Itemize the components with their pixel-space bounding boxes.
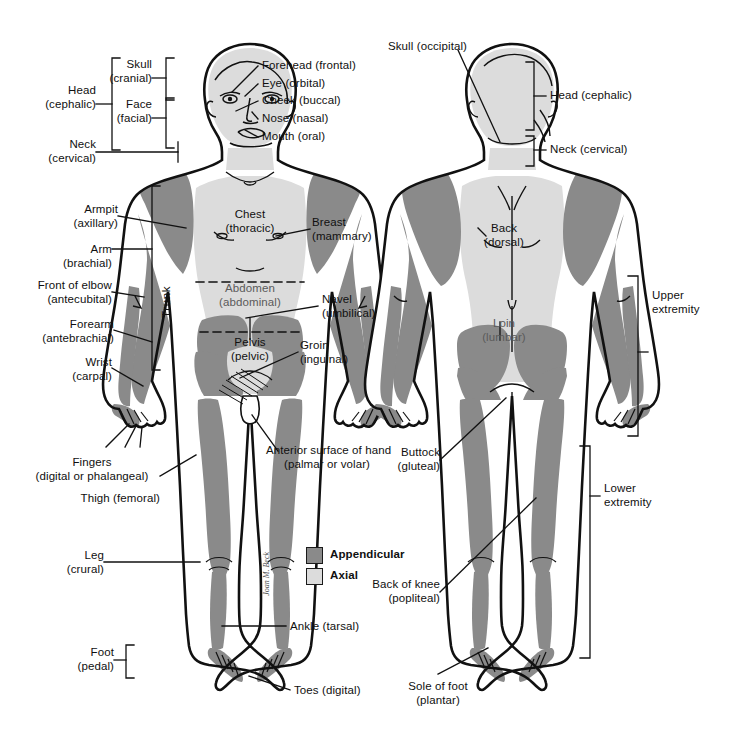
label-forehead-frontal: Forehead (frontal) — [262, 59, 356, 73]
label-navel-umbilical: Navel (umbilical) — [322, 293, 376, 320]
legend-swatch-appendicular — [306, 547, 323, 564]
label-foot-pedal: Foot (pedal) — [30, 646, 114, 673]
label-eye-orbital: Eye (orbital) — [262, 77, 325, 91]
label-buttock-gluteal: Buttock (gluteal) — [360, 446, 440, 473]
label-groin-inguinal: Groin (inguinal) — [300, 339, 348, 366]
label-sole-of-foot-plantar: Sole of foot (plantar) — [388, 680, 488, 707]
label-pelvis-pelvic: Pelvis (pelvic) — [206, 336, 294, 363]
label-lower-extremity: Lower extremity — [604, 482, 652, 509]
label-armpit-axillary: Armpit (axillary) — [20, 203, 118, 230]
label-wrist-carpal: Wrist (carpal) — [20, 356, 112, 383]
label-abdomen-abdominal: Abdomen (abdominal) — [192, 282, 308, 309]
label-nose-nasal: Nose (nasal) — [262, 112, 328, 126]
label-arm-brachial: Arm (brachial) — [20, 243, 112, 270]
label-neck-cervical-posterior: Neck (cervical) — [550, 143, 628, 157]
label-chest-thoracic: Chest (thoracic) — [194, 208, 306, 235]
anatomical-regions-diagram: Head (cephalic) Skull (cranial) Face (fa… — [0, 0, 729, 742]
label-breast-mammary: Breast (mammary) — [312, 216, 372, 243]
legend-label-axial: Axial — [330, 569, 358, 583]
label-neck-cervical: Neck (cervical) — [14, 138, 96, 165]
label-head-cephalic-posterior: Head (cephalic) — [550, 89, 632, 103]
artist-signature: Joan M. Beck — [262, 552, 271, 596]
posterior-left-leg — [472, 571, 489, 650]
label-face-facial: Face (facial) — [84, 98, 152, 125]
legend-swatch-axial — [306, 568, 323, 585]
label-forearm-antebrachial: Forearm (antebrachial) — [4, 318, 114, 345]
legend-label-appendicular: Appendicular — [330, 548, 405, 562]
posterior-neck-axial — [488, 148, 536, 170]
label-mouth-oral: Mouth (oral) — [262, 130, 325, 144]
label-skull-occipital: Skull (occipital) — [388, 40, 467, 54]
label-ankle-tarsal: Ankle (tarsal) — [290, 620, 359, 634]
label-loin-lumbar: Loin (lumbar) — [456, 317, 552, 344]
label-leg-crural: Leg (crural) — [20, 549, 104, 576]
label-fingers-digital-phalangeal: Fingers (digital or phalangeal) — [22, 456, 162, 483]
anterior-left-leg — [210, 571, 227, 650]
label-skull-cranial: Skull (cranial) — [84, 58, 152, 85]
label-upper-extremity: Upper extremity — [652, 289, 700, 316]
anterior-neck-axial — [226, 148, 274, 170]
label-toes-digital: Toes (digital) — [294, 684, 361, 698]
label-cheek-buccal: Cheek (buccal) — [262, 94, 341, 108]
posterior-right-leg — [535, 571, 552, 650]
label-thigh-femoral: Thigh (femoral) — [60, 492, 160, 506]
label-back-dorsal: Back (dorsal) — [456, 222, 552, 249]
label-front-of-elbow-antecubital: Front of elbow (antecubital) — [4, 279, 112, 306]
anterior-genital — [241, 396, 260, 424]
label-trunk: Trunk — [160, 286, 174, 318]
anterior-right-leg — [273, 571, 290, 650]
